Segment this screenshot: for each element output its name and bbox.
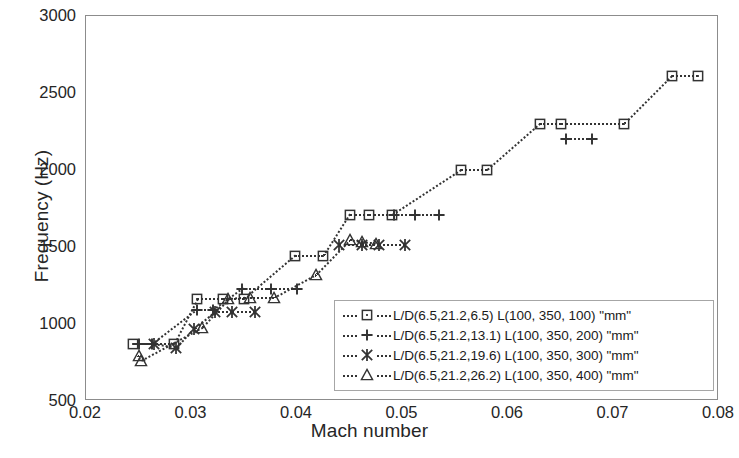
chart-container: Frequency (Hz) 50010001500200025003000 0… bbox=[0, 0, 739, 458]
legend-item-label: L/D(6.5,21.2,26.2) L(100, 350, 400) "mm" bbox=[393, 368, 638, 383]
x-tick-label: 0.04 bbox=[261, 404, 331, 421]
plus-marker-icon bbox=[341, 326, 393, 344]
y-tick-label: 2500 bbox=[16, 84, 76, 101]
legend-item[interactable]: L/D(6.5,21.2,26.2) L(100, 350, 400) "mm" bbox=[341, 365, 707, 385]
x-tick-label: 0.06 bbox=[472, 404, 542, 421]
series-connector bbox=[141, 327, 203, 362]
asterisk-marker-icon bbox=[341, 346, 393, 364]
legend-item-label: L/D(6.5,21.2,13.1) L(100, 350, 200) "mm" bbox=[393, 328, 638, 343]
y-tick-label: 2000 bbox=[16, 161, 76, 178]
x-tick-label: 0.03 bbox=[156, 404, 226, 421]
square-marker-icon bbox=[341, 306, 393, 324]
x-tick-label: 0.08 bbox=[683, 404, 739, 421]
legend-item[interactable]: L/D(6.5,21.2,19.6) L(100, 350, 300) "mm" bbox=[341, 345, 707, 365]
y-tick-label: 3000 bbox=[16, 7, 76, 24]
y-tick-label: 1000 bbox=[16, 315, 76, 332]
y-tick-label: 1500 bbox=[16, 238, 76, 255]
x-tick-label: 0.02 bbox=[50, 404, 120, 421]
legend-item[interactable]: L/D(6.5,21.2,13.1) L(100, 350, 200) "mm" bbox=[341, 325, 707, 345]
legend-item[interactable]: L/D(6.5,21.2,6.5) L(100, 350, 100) "mm" bbox=[341, 305, 707, 325]
triangle-marker-icon bbox=[341, 366, 393, 384]
legend-item-label: L/D(6.5,21.2,6.5) L(100, 350, 100) "mm" bbox=[393, 308, 631, 323]
y-axis-title: Frequency (Hz) bbox=[31, 91, 53, 341]
legend-item-label: L/D(6.5,21.2,19.6) L(100, 350, 300) "mm" bbox=[393, 348, 638, 363]
x-axis-title: Mach number bbox=[0, 420, 739, 442]
x-tick-label: 0.07 bbox=[578, 404, 648, 421]
chart-legend: L/D(6.5,21.2,6.5) L(100, 350, 100) "mm"L… bbox=[334, 300, 714, 391]
x-tick-label: 0.05 bbox=[367, 404, 437, 421]
